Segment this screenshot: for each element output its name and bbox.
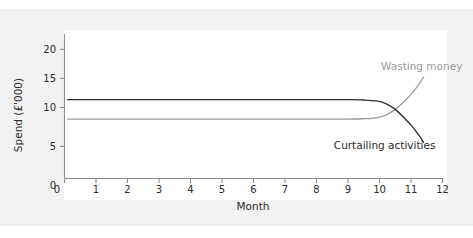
y-axis: 20 15 10 5 0 Spend (£'000) xyxy=(12,34,65,191)
x-tick-label: 5 xyxy=(219,184,225,195)
x-tick-3: 3 xyxy=(156,179,162,196)
line-chart: 20 15 10 5 0 Spend (£'000) xyxy=(0,0,473,238)
x-tick-label: 2 xyxy=(124,184,130,195)
x-tick-5: 5 xyxy=(219,179,225,196)
series-line-curtailing-activities xyxy=(68,100,424,143)
x-tick-7: 7 xyxy=(282,179,288,196)
x-tick-label: 3 xyxy=(156,184,162,195)
y-tick-15: 15 xyxy=(43,73,64,84)
y-tick-label: 15 xyxy=(43,73,56,84)
x-tick-4: 4 xyxy=(187,179,193,196)
x-tick-11: 11 xyxy=(405,179,418,196)
x-tick-label: 7 xyxy=(282,184,288,195)
annotation-curtailing-activities: Curtailing activities xyxy=(334,139,436,151)
y-tick-label: 5 xyxy=(50,141,56,152)
x-tick-8: 8 xyxy=(313,179,319,196)
annotation-wasting-money: Wasting money xyxy=(381,60,462,72)
x-tick-2: 2 xyxy=(124,179,130,196)
x-tick-label: 9 xyxy=(345,184,351,195)
x-axis: 0 1 2 3 4 5 6 xyxy=(54,179,449,213)
x-tick-label: 6 xyxy=(250,184,256,195)
x-tick-6: 6 xyxy=(250,179,256,196)
y-tick-5: 5 xyxy=(50,141,65,152)
y-tick-10: 10 xyxy=(43,102,64,113)
x-tick-12: 12 xyxy=(436,179,449,196)
y-axis-title: Spend (£'000) xyxy=(12,78,24,152)
x-tick-label: 10 xyxy=(373,184,386,195)
x-tick-label: 12 xyxy=(436,184,449,195)
x-tick-9: 9 xyxy=(345,179,351,196)
y-tick-label: 10 xyxy=(43,102,56,113)
x-tick-1: 1 xyxy=(93,179,99,196)
x-tick-label: 0 xyxy=(54,184,60,195)
y-tick-label: 20 xyxy=(43,44,56,55)
x-axis-title: Month xyxy=(237,200,270,212)
x-tick-label: 8 xyxy=(313,184,319,195)
chart-figure: 20 15 10 5 0 Spend (£'000) xyxy=(0,0,473,238)
x-tick-label: 11 xyxy=(405,184,418,195)
x-tick-label: 4 xyxy=(187,184,193,195)
x-tick-10: 10 xyxy=(373,179,386,196)
y-tick-20: 20 xyxy=(43,44,64,55)
x-tick-label: 1 xyxy=(93,184,99,195)
series-line-wasting-money xyxy=(68,77,424,119)
